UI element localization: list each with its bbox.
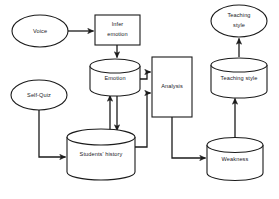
- teaching-style-cylinder-top: [211, 58, 267, 72]
- node-students-history[interactable]: Students' history: [67, 129, 135, 180]
- teaching-style-store-label: Teaching style: [221, 75, 258, 81]
- flowchart: Voice Infer emotion Emotion Self-Quiz St…: [0, 0, 279, 199]
- edge-analysis-to-weakness-store: [172, 117, 206, 158]
- emotion-cylinder-top: [90, 59, 140, 73]
- node-infer-emotion[interactable]: Infer emotion: [95, 15, 140, 45]
- students-history-label: Students' history: [80, 151, 123, 157]
- edge-self-quiz-to-students-history: [39, 110, 66, 157]
- teaching-style-output-label-line1: Teaching: [227, 12, 250, 18]
- weakness-cylinder-top: [207, 138, 263, 153]
- weakness-store-label: Weakness: [222, 156, 249, 162]
- teaching-style-output-ellipse: [211, 5, 267, 37]
- node-self-quiz[interactable]: Self-Quiz: [11, 80, 67, 110]
- node-weakness-store[interactable]: Weakness: [207, 138, 263, 181]
- analysis-label: Analysis: [161, 83, 183, 89]
- node-emotion-store[interactable]: Emotion: [90, 59, 140, 96]
- students-history-cylinder-top: [67, 129, 135, 145]
- node-teaching-style-store[interactable]: Teaching style: [211, 58, 267, 98]
- infer-emotion-label-line1: Infer: [112, 21, 124, 27]
- infer-emotion-rect: [95, 15, 140, 45]
- node-analysis[interactable]: Analysis: [152, 57, 192, 117]
- emotion-store-label: Emotion: [104, 75, 125, 81]
- voice-label: Voice: [33, 28, 47, 34]
- node-teaching-style-output[interactable]: Teaching style: [211, 5, 267, 37]
- edge-students-history-to-analysis: [135, 93, 151, 147]
- self-quiz-label: Self-Quiz: [27, 92, 51, 98]
- infer-emotion-label-line2: emotion: [107, 31, 128, 37]
- edge-emotion-store-to-analysis: [140, 72, 151, 79]
- node-voice[interactable]: Voice: [12, 15, 68, 47]
- diagram-canvas: Voice Infer emotion Emotion Self-Quiz St…: [0, 0, 279, 199]
- teaching-style-output-label-line2: style: [233, 22, 245, 28]
